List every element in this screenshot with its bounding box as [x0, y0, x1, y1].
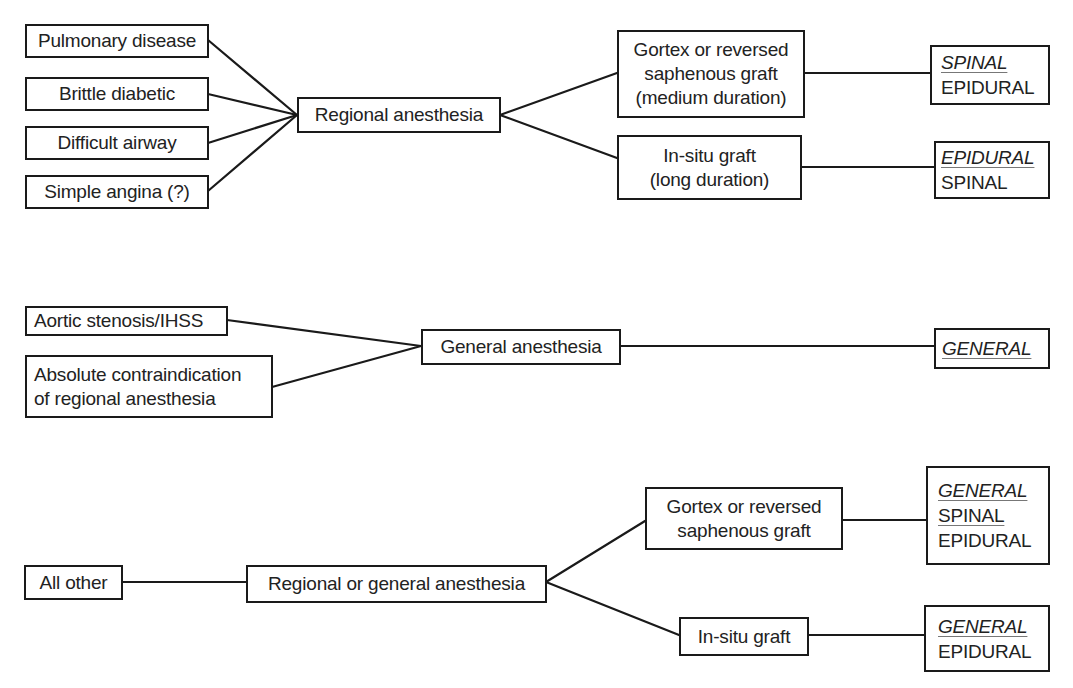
indication-aortic-stenosis: Aortic stenosis/IHSS [25, 306, 228, 336]
graft-line: (long duration) [650, 168, 770, 192]
indication-label: Simple angina (?) [44, 180, 190, 204]
indication-difficult-airway: Difficult airway [25, 126, 209, 160]
graft-line: Gortex or reversed [634, 38, 789, 62]
indication-all-other: All other [24, 565, 123, 600]
options-general: GENERAL [934, 328, 1050, 369]
indication-label: All other [40, 571, 108, 595]
technique-regional-anesthesia: Regional anesthesia [297, 97, 501, 133]
graft-line: In-situ graft [663, 144, 755, 168]
indication-simple-angina: Simple angina (?) [25, 175, 209, 209]
indication-label: Pulmonary disease [38, 29, 196, 53]
technique-label: Regional anesthesia [315, 103, 483, 127]
graft-line: In-situ graft [698, 625, 790, 649]
technique-label: Regional or general anesthesia [268, 572, 525, 596]
graft-gortex: Gortex or reversed saphenous graft [645, 487, 843, 550]
option-preferred: GENERAL [938, 614, 1027, 639]
technique-label: General anesthesia [440, 335, 601, 359]
indication-absolute-contraindication: Absolute contraindication of regional an… [25, 355, 273, 418]
option-alternative: EPIDURAL [938, 528, 1031, 553]
graft-in-situ-long: In-situ graft (long duration) [617, 135, 802, 200]
graft-line: saphenous graft [644, 62, 777, 86]
technique-general-anesthesia: General anesthesia [421, 329, 621, 365]
graft-line: Gortex or reversed [667, 495, 822, 519]
graft-gortex-medium: Gortex or reversed saphenous graft (medi… [617, 30, 805, 118]
option-alternative: EPIDURAL [938, 639, 1031, 664]
option-alternative: SPINAL [941, 170, 1007, 195]
indication-label: of regional anesthesia [34, 387, 216, 411]
option-preferred: GENERAL [942, 336, 1031, 361]
graft-line: (medium duration) [636, 86, 787, 110]
graft-line: saphenous graft [677, 519, 810, 543]
indication-pulmonary-disease: Pulmonary disease [25, 24, 209, 58]
option-preferred: GENERAL [938, 478, 1027, 503]
indication-label: Absolute contraindication [34, 363, 241, 387]
options-spinal-epidural: SPINAL EPIDURAL [930, 45, 1050, 105]
options-general-spinal-epidural: GENERAL SPINAL EPIDURAL [926, 466, 1050, 565]
indication-label: Difficult airway [58, 131, 177, 155]
indication-label: Aortic stenosis/IHSS [34, 309, 203, 333]
options-epidural-spinal: EPIDURAL SPINAL [934, 141, 1050, 199]
option-secondary: SPINAL [938, 503, 1004, 528]
option-preferred: SPINAL [941, 50, 1007, 75]
indication-label: Brittle diabetic [59, 82, 175, 106]
option-alternative: EPIDURAL [941, 75, 1034, 100]
technique-regional-or-general: Regional or general anesthesia [246, 565, 547, 603]
options-general-epidural: GENERAL EPIDURAL [924, 605, 1050, 672]
indication-brittle-diabetic: Brittle diabetic [25, 77, 209, 111]
graft-in-situ: In-situ graft [679, 617, 809, 656]
option-preferred: EPIDURAL [941, 145, 1034, 170]
